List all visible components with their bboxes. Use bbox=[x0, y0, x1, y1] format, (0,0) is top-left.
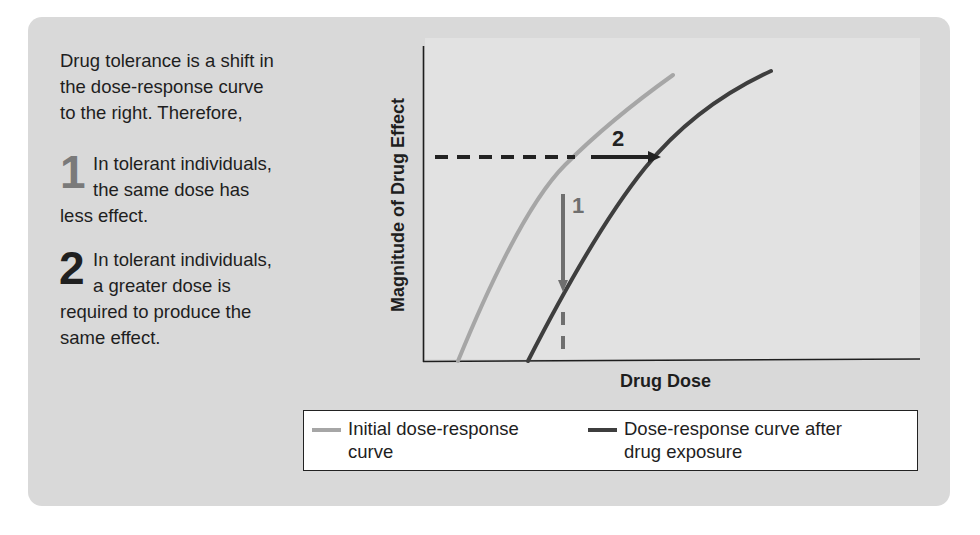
legend-label: drug exposure bbox=[588, 440, 918, 463]
legend-label: Initial dose-response bbox=[312, 417, 582, 440]
x-axis bbox=[423, 359, 920, 362]
legend-item-initial: Initial dose-response curve bbox=[312, 417, 582, 463]
y-axis-label: Magnitude of Drug Effect bbox=[388, 98, 409, 312]
legend-label: curve bbox=[312, 440, 582, 463]
legend-label: Dose-response curve after bbox=[588, 417, 918, 440]
plot-area bbox=[425, 38, 920, 359]
legend-swatch-initial bbox=[312, 428, 341, 432]
x-axis-label: Drug Dose bbox=[620, 371, 711, 392]
legend-item-after-exposure: Dose-response curve after drug exposure bbox=[588, 417, 918, 463]
legend: Initial dose-response curve Dose-respons… bbox=[303, 410, 918, 471]
annotation-2: 2 bbox=[612, 126, 624, 152]
annotation-1: 1 bbox=[572, 193, 584, 219]
legend-swatch-after-exposure bbox=[588, 428, 617, 432]
